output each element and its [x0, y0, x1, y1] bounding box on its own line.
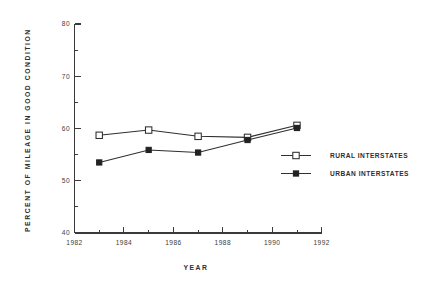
x-tick-label: 1988 [215, 239, 231, 246]
y-tick-label: 80 [62, 20, 70, 27]
x-tick-label: 1986 [165, 239, 181, 246]
x-axis-tick-labels: 1982 1984 1986 1988 1990 1992 [66, 239, 330, 246]
data-point-marker [146, 147, 151, 152]
y-tick-label: 40 [62, 229, 70, 236]
y-tick-label: 50 [62, 177, 70, 184]
data-point-marker [96, 132, 102, 138]
data-point-marker [245, 137, 250, 142]
data-point-marker [196, 150, 201, 155]
x-tick-label: 1984 [116, 239, 132, 246]
legend-marker-open-square [293, 152, 299, 158]
data-point-marker [145, 127, 151, 133]
data-point-marker [294, 125, 299, 130]
data-point-marker [195, 133, 201, 139]
chart-legend: RURAL INTERSTATES URBAN INTERSTATES [281, 152, 409, 177]
data-point-marker [97, 160, 102, 165]
line-chart-svg: PERCENT OF MILEAGE IN GOOD CONDITION YEA… [0, 0, 427, 285]
legend-item-urban[interactable]: URBAN INTERSTATES [281, 170, 409, 177]
y-axis-tick-labels: 40 50 60 70 80 [62, 20, 70, 236]
legend-marker-filled-square [293, 171, 298, 176]
series-rural-interstates [96, 122, 300, 140]
legend-item-rural[interactable]: RURAL INTERSTATES [281, 152, 408, 159]
legend-label-rural: RURAL INTERSTATES [330, 152, 408, 159]
series-urban-interstates [97, 125, 300, 165]
x-tick-label: 1992 [313, 239, 329, 246]
x-axis-title: YEAR [183, 264, 208, 271]
plot-area [96, 122, 300, 165]
x-tick-label: 1982 [66, 239, 82, 246]
legend-label-urban: URBAN INTERSTATES [330, 170, 409, 177]
y-tick-label: 70 [62, 73, 70, 80]
y-tick-label: 60 [62, 125, 70, 132]
x-tick-label: 1990 [264, 239, 280, 246]
y-axis-title: PERCENT OF MILEAGE IN GOOD CONDITION [24, 28, 31, 232]
chart-figure: PERCENT OF MILEAGE IN GOOD CONDITION YEA… [0, 0, 427, 285]
y-axis-major-ticks [75, 24, 81, 233]
